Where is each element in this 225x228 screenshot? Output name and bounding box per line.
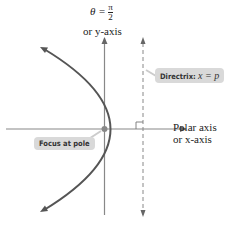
y-axis-label: θ = π2 xyxy=(90,3,113,22)
focus-label: Focus at pole xyxy=(34,137,95,150)
y-axis-label-line2: or y-axis xyxy=(83,25,122,37)
directrix-label: Directrix: x = p xyxy=(155,68,224,83)
right-angle-marker xyxy=(136,122,143,129)
x-axis-label: Polar axis or x-axis xyxy=(173,121,217,145)
directrix-arrow-down-icon xyxy=(141,210,146,217)
focus-point xyxy=(102,126,108,132)
directrix-arrow-up-icon xyxy=(141,37,146,44)
